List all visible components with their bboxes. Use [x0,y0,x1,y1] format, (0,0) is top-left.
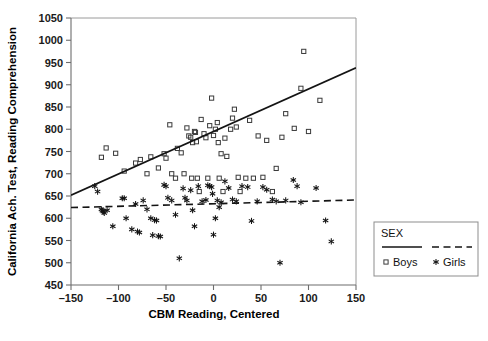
point-boys [114,151,118,155]
point-boys [138,157,142,161]
point-boys [134,161,138,165]
data-layer [71,49,356,266]
y-axis-title: California Ach. Test, Reading Comprehens… [6,27,18,276]
y-tick-label: 950 [45,57,63,69]
x-tick-label: 100 [299,292,317,304]
point-boys [280,135,284,139]
point-boys [229,127,233,131]
point-girls [123,215,128,221]
point-girls [245,184,250,190]
point-boys [299,86,303,90]
fit-line-boys [71,68,356,195]
point-boys [208,124,212,128]
x-tick-label: 0 [210,292,216,304]
point-boys [248,118,252,122]
point-boys [195,176,199,180]
point-girls [180,185,185,191]
point-boys [99,155,103,159]
point-girls [190,207,195,213]
point-girls [196,183,201,189]
point-boys [284,112,288,116]
x-tick-label: –150 [59,292,83,304]
point-girls [144,206,149,212]
y-tick-label: 1000 [39,34,63,46]
point-boys [251,176,255,180]
y-tick-label: 500 [45,257,63,269]
point-boys [236,175,240,179]
point-girls [277,260,282,266]
point-girls [260,184,265,190]
point-boys [206,176,210,180]
legend: SEXBoysGirls [374,222,478,276]
x-tick-label: 150 [347,292,365,304]
y-tick-label: 550 [45,235,63,247]
point-boys [270,189,274,193]
point-boys [274,166,278,170]
y-tick-label: 650 [45,190,63,202]
point-boys [197,189,201,193]
point-girls [222,178,227,184]
fit-line-girls [71,200,356,208]
point-boys [238,189,242,193]
point-girls [110,223,115,229]
point-girls [95,188,100,194]
point-girls [141,197,146,203]
y-tick-label: 700 [45,168,63,180]
y-tick-label: 800 [45,123,63,135]
point-girls [148,215,153,221]
point-girls [169,197,174,203]
point-girls [323,217,328,223]
point-boys [190,176,194,180]
point-girls [294,183,299,189]
point-girls [210,191,215,197]
x-tick-label: –50 [157,292,175,304]
point-boys [265,138,269,142]
point-girls [188,187,193,193]
point-girls [329,238,334,244]
point-girls [298,199,303,205]
point-boys [156,166,160,170]
point-boys [215,120,219,124]
legend-title: SEX [381,227,404,239]
point-boys [230,116,234,120]
point-boys [182,172,186,176]
point-girls [215,197,220,203]
point-girls [226,185,231,191]
point-boys [168,123,172,127]
point-boys [104,146,108,150]
point-boys [185,126,189,130]
scatter-plot-figure: 4505005506006507007508008509009501000105… [0,0,488,341]
point-girls [255,198,260,204]
y-tick-label: 850 [45,101,63,113]
point-girls [264,187,269,193]
point-boys [199,117,203,121]
point-boys [221,189,225,193]
point-boys [210,96,214,100]
point-boys [179,151,183,155]
point-boys [219,152,223,156]
y-tick-label: 1050 [39,12,63,24]
x-tick-label: 50 [255,292,267,304]
point-boys [234,125,238,129]
point-boys [244,176,248,180]
point-girls [165,195,170,201]
point-boys [302,49,306,53]
point-girls [313,185,318,191]
point-boys [261,175,265,179]
point-boys [232,107,236,111]
point-girls [129,226,134,232]
point-girls [291,177,296,183]
point-girls [249,218,254,224]
point-boys [318,98,322,102]
x-tick-label: –100 [106,292,130,304]
point-boys [216,141,220,145]
legend-label-boys: Boys [393,256,418,268]
point-girls [230,196,235,202]
point-girls [211,232,216,238]
point-boys [211,133,215,137]
page-bleed-text [0,322,488,341]
point-boys [217,176,221,180]
point-boys [173,176,177,180]
y-tick-label: 750 [45,146,63,158]
y-tick-label: 600 [45,212,63,224]
